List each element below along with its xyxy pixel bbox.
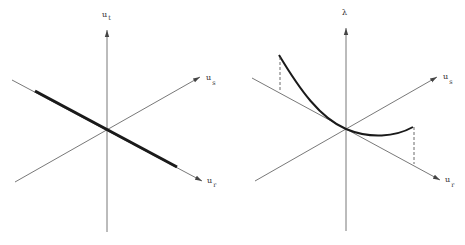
label-ut: ut [102,10,111,22]
right-panel: λ us ur [252,8,455,231]
label-ur: ur [207,176,217,189]
left-panel: ut us ur [12,10,217,232]
diagram-canvas: ut us ur λ us ur [0,0,465,245]
label-ur: ur [445,175,455,189]
label-us: us [206,73,216,87]
label-lambda: λ [342,8,347,17]
label-us: us [443,72,453,86]
